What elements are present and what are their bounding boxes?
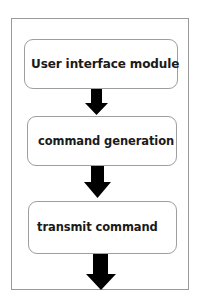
node-transmit-command: transmit command	[28, 201, 177, 254]
node-label: User interface module	[31, 57, 179, 71]
arrow-down-icon	[84, 166, 111, 199]
arrow-down-icon	[86, 254, 116, 291]
node-label: command generation	[38, 134, 174, 148]
node-command-generation: command generation	[27, 116, 177, 166]
node-label: transmit command	[37, 220, 158, 234]
arrow-down-icon	[85, 89, 109, 116]
node-user-interface-module: User interface module	[24, 39, 178, 89]
